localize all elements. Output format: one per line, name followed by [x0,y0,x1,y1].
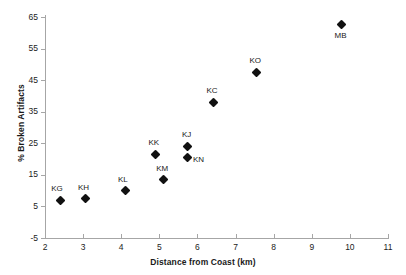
data-point-marker [55,195,65,205]
x-tick-label: 9 [302,243,322,252]
x-tick-label: 5 [149,243,169,252]
y-tick-label-wrap: 5 [8,202,38,211]
data-point-marker [120,186,130,196]
data-point-marker [337,20,347,30]
data-point-marker [151,149,161,159]
data-point-marker [80,194,90,204]
y-tick-label-wrap: 55 [8,44,38,53]
x-tick-label: 3 [73,243,93,252]
y-tick-mark [41,49,45,50]
y-tick-label: 55 [14,44,38,53]
y-axis-title: % Broken Artifacts [16,53,26,193]
data-point-label: KM [156,164,168,173]
y-tick-mark [41,238,45,239]
y-tick-mark [41,206,45,207]
x-tick-mark [350,234,351,238]
x-tick-label: 11 [378,243,398,252]
x-tick-mark [388,234,389,238]
x-tick-mark [197,234,198,238]
y-tick-label-wrap: -5 [8,234,38,243]
data-point-marker [158,175,168,185]
data-point-marker [208,97,218,107]
y-tick-label: -5 [14,234,38,243]
x-tick-label: 8 [264,243,284,252]
data-point-label: KG [51,184,63,193]
y-axis-line [45,15,46,239]
x-axis-line [45,238,389,239]
data-point-label: MB [335,31,347,40]
x-tick-mark [83,234,84,238]
y-tick-mark [41,80,45,81]
x-axis-title: Distance from Coast (km) [0,257,406,267]
data-point-label: KK [149,138,160,147]
y-tick-mark [41,175,45,176]
data-point-marker [252,67,262,77]
x-tick-label: 2 [35,243,55,252]
x-tick-mark [236,234,237,238]
data-point-label: KN [193,155,204,164]
x-tick-mark [45,234,46,238]
x-tick-label: 7 [226,243,246,252]
data-point-marker [183,141,193,151]
x-tick-mark [121,234,122,238]
data-point-label: KC [206,86,217,95]
data-point-label: KO [250,56,262,65]
x-tick-mark [312,234,313,238]
y-tick-label-wrap: 65 [8,13,38,22]
x-tick-mark [274,234,275,238]
scatter-chart: -55152535455565 234567891011 KGKHKLKMKKK… [0,0,406,275]
y-tick-mark [41,143,45,144]
data-point-label: KH [78,183,89,192]
x-tick-mark [159,234,160,238]
y-tick-label: 5 [14,202,38,211]
data-point-label: KJ [182,130,191,139]
y-tick-mark [41,17,45,18]
x-tick-label: 10 [340,243,360,252]
data-point-label: KL [118,175,128,184]
data-point-marker [183,153,193,163]
x-tick-label: 4 [111,243,131,252]
x-tick-label: 6 [187,243,207,252]
y-tick-label: 65 [14,13,38,22]
y-tick-mark [41,112,45,113]
